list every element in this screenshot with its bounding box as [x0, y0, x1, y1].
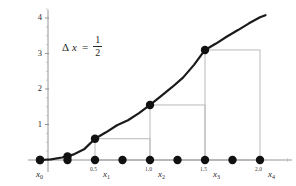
riemann-rectangle-1	[150, 105, 205, 160]
riemann-rectangle-2	[205, 50, 260, 160]
x-axis-variable-label-4: x4	[268, 170, 275, 179]
curve-point-dot-4	[201, 46, 209, 54]
axis-sample-dot-2	[91, 156, 99, 164]
plot-canvas	[0, 0, 296, 186]
axis-sample-dot-6	[201, 156, 209, 164]
x-var-subscript: 4	[272, 174, 275, 180]
x-var-subscript: 0	[40, 174, 43, 180]
curve-point-dot-0	[36, 156, 44, 164]
x-axis-number-label-2: 1.0	[145, 167, 152, 173]
delta-symbol: Δ	[62, 42, 69, 53]
x-var-subscript: 3	[217, 174, 220, 180]
x-var-subscript: 1	[107, 174, 110, 180]
x-axis-variable-label-2: x2	[158, 170, 165, 179]
x-axis-variable-label-1: x1	[103, 170, 110, 179]
annotation-equals: =	[82, 42, 88, 53]
x-axis-number-label-4: 2.0	[255, 167, 262, 173]
axis-sample-dot-8	[256, 156, 264, 164]
x-axis-number-label-3: 1.5	[200, 167, 207, 173]
y-axis-tick-label-3: 3	[32, 49, 42, 58]
axis-sample-dot-4	[146, 156, 154, 164]
axis-sample-dot-5	[173, 156, 181, 164]
y-axis-tick-label-2: 2	[32, 84, 42, 93]
axis-sample-dot-3	[118, 156, 126, 164]
x-var-subscript: 2	[162, 174, 165, 180]
annotation-variable: x	[72, 42, 77, 53]
curve-point-dot-1	[63, 152, 71, 160]
x-axis-number-label-1: 0.5	[90, 167, 97, 173]
x-axis-variable-label-0: x0	[36, 170, 43, 179]
curve-point-dot-3	[146, 101, 154, 109]
y-axis-tick-label-1: 1	[32, 120, 42, 129]
fraction-numerator: 1	[93, 35, 102, 46]
axis-sample-dot-7	[228, 156, 236, 164]
fraction-one-half: 1 2	[93, 35, 102, 58]
y-axis-tick-label-4: 4	[32, 13, 42, 22]
x-axis-variable-label-3: x3	[213, 170, 220, 179]
delta-x-annotation: Δx = 1 2	[62, 36, 102, 59]
fraction-denominator: 2	[93, 47, 102, 58]
curve-point-dot-2	[91, 135, 99, 143]
